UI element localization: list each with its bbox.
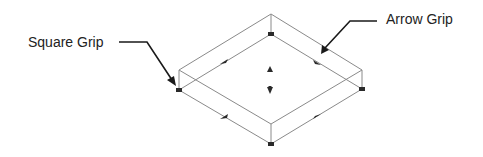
square-grip-label: Square Grip — [28, 34, 103, 50]
square-grip-leader — [119, 42, 176, 86]
arrow-grip-upper-right-icon[interactable] — [313, 60, 321, 65]
arrow-grip-upper-left-icon[interactable] — [220, 59, 228, 64]
square-grip-bottom[interactable] — [268, 142, 274, 146]
arrow-grips — [220, 59, 321, 119]
arrow-grip-label: Arrow Grip — [386, 11, 453, 27]
arrow-grip-height-down-icon[interactable] — [267, 87, 273, 94]
square-grip-top[interactable] — [268, 32, 274, 36]
arrow-grip-height-up-icon[interactable] — [267, 66, 273, 72]
square-grip-left[interactable] — [176, 88, 182, 92]
arrow-grip-leader — [321, 21, 377, 54]
square-grip-right[interactable] — [359, 87, 365, 91]
